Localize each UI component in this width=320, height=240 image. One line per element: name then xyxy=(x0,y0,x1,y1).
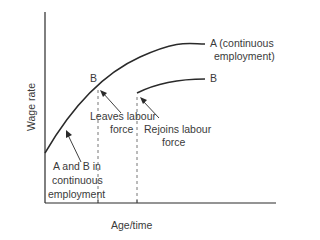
arrow-continuous xyxy=(66,130,81,162)
x-axis-label: Age/time xyxy=(111,219,152,232)
continuous-label-line3: employment xyxy=(48,188,105,201)
leaves-label-line2: force xyxy=(110,123,133,136)
rejoins-label-line2: force xyxy=(162,136,185,149)
continuous-label-line2: continuous xyxy=(52,174,103,187)
curve-b-rejoin xyxy=(137,79,205,93)
continuous-label-line1: A and B in xyxy=(53,160,101,173)
curve-b-label: B xyxy=(210,72,217,85)
rejoins-label-line1: Rejoins labour xyxy=(144,123,211,136)
point-b-label: B xyxy=(90,72,97,85)
leaves-label-line1: Leaves labour xyxy=(90,110,156,123)
curve-a-label-line2: employment) xyxy=(214,50,275,63)
y-axis-label: Wage rate xyxy=(25,77,37,137)
curve-a-label: A (continuous xyxy=(210,37,274,50)
